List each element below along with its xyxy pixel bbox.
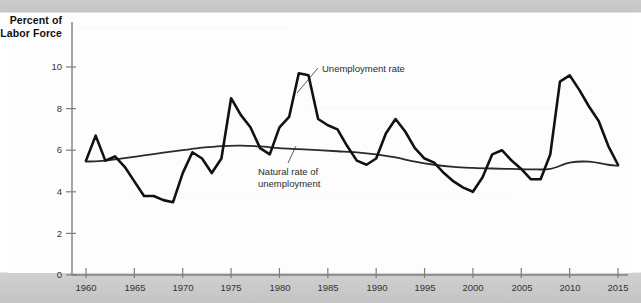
page-background: Percent of Labor Force 10 8 6 4 2 0 1960…: [0, 0, 641, 303]
unemployment-chart: [0, 0, 641, 303]
x-axis-ticks: [86, 268, 618, 278]
unemployment-rate-line: [86, 73, 618, 202]
unemployment-leader-line: [297, 68, 318, 93]
natural-rate-line: [86, 146, 618, 170]
chart-series: [86, 73, 618, 202]
y-axis-ticks: [66, 67, 76, 275]
chart-axes: [66, 22, 628, 278]
